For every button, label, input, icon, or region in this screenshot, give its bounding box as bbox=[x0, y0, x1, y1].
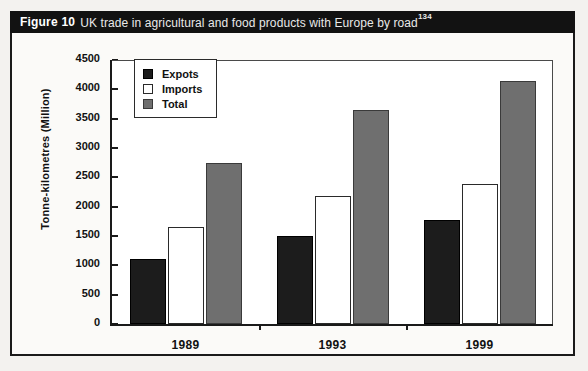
legend-swatch-expots bbox=[143, 69, 153, 79]
legend-label-total: Total bbox=[162, 98, 187, 110]
y-axis-tick-label: 0 bbox=[94, 316, 100, 328]
y-axis-tick-mark bbox=[112, 294, 118, 296]
y-axis-tick-label: 3000 bbox=[76, 140, 100, 152]
bar-group-1999 bbox=[424, 60, 536, 324]
bar-expots-1999[interactable] bbox=[424, 220, 460, 324]
y-axis-tick-label: 1000 bbox=[76, 257, 100, 269]
y-axis-tick-mark bbox=[112, 118, 118, 120]
y-axis-tick-mark bbox=[112, 147, 118, 149]
legend-label-imports: Imports bbox=[162, 83, 202, 95]
y-axis-tick-mark bbox=[112, 264, 118, 266]
bar-imports-1993[interactable] bbox=[315, 196, 351, 324]
y-axis-tick-mark bbox=[112, 206, 118, 208]
y-axis-tick-label: 2000 bbox=[76, 199, 100, 211]
bar-imports-1989[interactable] bbox=[168, 227, 204, 324]
x-axis-tick-mark bbox=[259, 324, 261, 330]
y-axis-tick-mark bbox=[112, 88, 118, 90]
y-axis-tick-label: 1500 bbox=[76, 228, 100, 240]
bar-expots-1989[interactable] bbox=[130, 259, 166, 324]
y-axis-tick-label: 3500 bbox=[76, 111, 100, 123]
bar-imports-1999[interactable] bbox=[462, 184, 498, 324]
figure-caption-text: UK trade in agricultural and food produc… bbox=[80, 15, 432, 30]
legend-swatch-imports bbox=[143, 84, 153, 94]
figure-number: Figure 10 bbox=[20, 15, 75, 29]
legend-swatch-total bbox=[143, 99, 153, 109]
y-axis-tick-mark bbox=[112, 235, 118, 237]
legend-label-expots: Expots bbox=[162, 68, 199, 80]
bar-expots-1993[interactable] bbox=[277, 236, 313, 324]
y-axis-title: Tonne-kilometres (Million) bbox=[39, 79, 51, 239]
legend-item-total[interactable]: Total bbox=[143, 96, 202, 111]
x-axis-tick-mark bbox=[406, 324, 408, 330]
figure-caption-bar: Figure 10 UK trade in agricultural and f… bbox=[10, 11, 575, 33]
legend-item-expots[interactable]: Expots bbox=[143, 66, 202, 81]
y-axis-tick-label: 4500 bbox=[76, 52, 100, 64]
bar-group-1993 bbox=[277, 60, 389, 324]
bar-total-1999[interactable] bbox=[500, 81, 536, 324]
chart-area: Tonne-kilometres (Million) 0500100015002… bbox=[10, 33, 575, 356]
y-axis-tick-label: 4000 bbox=[76, 81, 100, 93]
y-axis-tick-label: 2500 bbox=[76, 169, 100, 181]
legend-item-imports[interactable]: Imports bbox=[143, 81, 202, 96]
figure-container: Figure 10 UK trade in agricultural and f… bbox=[0, 0, 588, 371]
bar-total-1993[interactable] bbox=[353, 110, 389, 324]
x-axis-label-1999: 1999 bbox=[420, 338, 540, 352]
x-axis-label-1993: 1993 bbox=[273, 338, 393, 352]
y-axis-tick-mark bbox=[112, 323, 118, 325]
caption-footnote-superscript: 134 bbox=[418, 12, 432, 21]
y-axis-tick-mark bbox=[112, 176, 118, 178]
x-axis-label-1989: 1989 bbox=[126, 338, 246, 352]
caption-body: UK trade in agricultural and food produc… bbox=[80, 16, 418, 30]
y-axis-tick-label: 500 bbox=[82, 287, 100, 299]
chart-legend: ExpotsImportsTotal bbox=[134, 59, 217, 118]
bar-total-1989[interactable] bbox=[206, 163, 242, 324]
y-axis-tick-mark bbox=[112, 59, 118, 61]
